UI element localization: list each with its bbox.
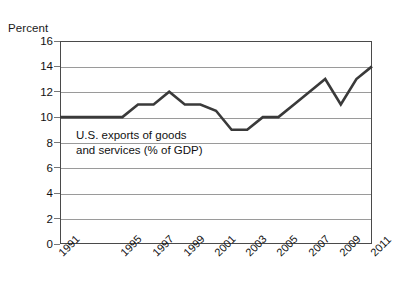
y-tick-mark-16 (54, 41, 60, 42)
y-tick-label-2: 2 (27, 213, 53, 225)
y-tick-label-8: 8 (27, 137, 53, 149)
y-tick-mark-2 (54, 218, 60, 219)
y-tick-mark-14 (54, 66, 60, 67)
y-tick-mark-4 (54, 193, 60, 194)
y-tick-mark-6 (54, 167, 60, 168)
y-tick-label-6: 6 (27, 162, 53, 174)
y-tick-mark-12 (54, 91, 60, 92)
series-line-us-exports (60, 66, 372, 129)
annotation-line-1: U.S. exports of goods (76, 128, 203, 143)
y-tick-mark-10 (54, 117, 60, 118)
y-tick-label-10: 10 (27, 111, 53, 123)
y-tick-label-4: 4 (27, 187, 53, 199)
y-tick-label-0: 0 (27, 238, 53, 250)
y-tick-mark-8 (54, 142, 60, 143)
y-tick-label-12: 12 (27, 86, 53, 98)
y-axis-title: Percent (8, 22, 48, 34)
chart-container: Percent U.S. exports of goods and servic… (0, 0, 399, 293)
y-tick-label-16: 16 (27, 35, 53, 47)
annotation-line-2: and services (% of GDP) (76, 143, 203, 158)
y-tick-mark-0 (54, 244, 60, 245)
y-tick-label-14: 14 (27, 60, 53, 72)
series-annotation: U.S. exports of goods and services (% of… (76, 128, 203, 158)
